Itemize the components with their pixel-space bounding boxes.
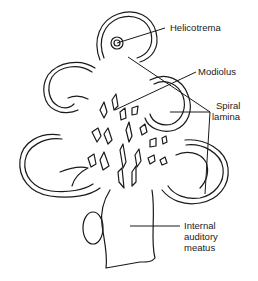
label-internal-auditory-meatus-1: Internal bbox=[184, 220, 216, 231]
label-spiral-lamina-2: lamina bbox=[212, 111, 240, 122]
label-internal-auditory-meatus-2: auditory bbox=[184, 231, 218, 242]
cochlea-diagram bbox=[0, 0, 258, 281]
label-modiolus: Modiolus bbox=[198, 66, 236, 77]
label-internal-auditory-meatus-3: meatus bbox=[184, 242, 215, 253]
label-spiral-lamina-1: Spiral bbox=[216, 100, 240, 111]
label-helicotrema: Helicotrema bbox=[170, 22, 221, 33]
leader-lines bbox=[115, 28, 210, 226]
